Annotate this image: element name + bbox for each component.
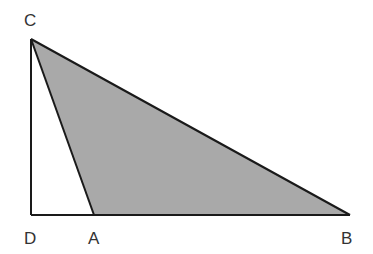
label-a: A: [88, 229, 100, 248]
label-d: D: [24, 229, 36, 248]
label-c: C: [24, 11, 36, 30]
label-b: B: [341, 229, 352, 248]
triangle-diagram: C D A B: [0, 0, 373, 254]
